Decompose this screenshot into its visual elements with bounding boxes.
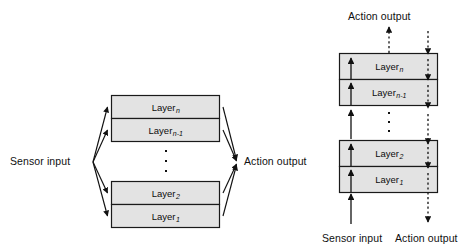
right-layer-n-minus-1-sub: n-1 <box>396 92 406 99</box>
left-action-output-label: Action output <box>244 155 307 167</box>
right-layer-1-label: Layer1 <box>375 174 403 185</box>
right-layer-n-base: Layer <box>375 61 399 72</box>
right-layer-2-sub: 2 <box>399 153 403 160</box>
left-layer-n-minus-1-base: Layer <box>149 125 173 136</box>
right-layer-n-label: Layern <box>375 61 403 72</box>
right-sensor-input-label: Sensor input <box>322 232 382 244</box>
left-layer-1-base: Layer <box>152 211 176 222</box>
right-action-output-label: Action output <box>395 232 458 244</box>
left-layer-2-base: Layer <box>152 188 176 199</box>
right-layer-n-minus-1-base: Layer <box>372 87 396 98</box>
diagram-vector-layer <box>0 0 467 252</box>
left-layer-n-label: Layern <box>152 102 180 113</box>
left-layer-n-sub: n <box>176 107 180 114</box>
left-output-arrows <box>223 107 237 216</box>
right-layer-1-sub: 1 <box>399 179 403 186</box>
right-vertical-ellipsis-icon <box>388 112 390 132</box>
right-layer-n-sub: n <box>399 66 403 73</box>
right-top-action-output-label: Action output <box>348 10 411 22</box>
left-vertical-ellipsis-icon <box>165 150 167 172</box>
left-layer-n-base: Layer <box>152 102 176 113</box>
left-layer-n-minus-1-sub: n-1 <box>173 130 183 137</box>
left-sensor-input-label: Sensor input <box>10 155 70 167</box>
left-layer-2-label: Layer2 <box>152 188 180 199</box>
left-layer-2-sub: 2 <box>176 193 180 200</box>
left-input-arrows <box>93 107 108 216</box>
right-layer-2-base: Layer <box>375 148 399 159</box>
right-layer-2-label: Layer2 <box>375 148 403 159</box>
right-layer-n-minus-1-label: Layern-1 <box>372 87 406 98</box>
left-layer-1-sub: 1 <box>176 216 180 223</box>
figure-root: Sensor input Action output Layern Layern… <box>0 0 467 252</box>
right-layer-1-base: Layer <box>375 174 399 185</box>
left-layer-1-label: Layer1 <box>152 211 180 222</box>
left-layer-n-minus-1-label: Layern-1 <box>149 125 183 136</box>
